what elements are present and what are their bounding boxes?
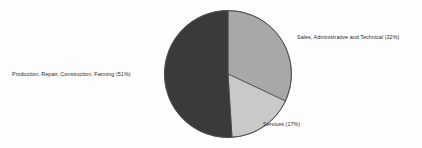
- pie-slice-2: [164, 10, 232, 137]
- pie-chart: Sales, Administrative and Technical (32%…: [0, 0, 422, 148]
- pie-label-services: Services (17%): [263, 122, 300, 128]
- pie-slice-group: [164, 10, 291, 137]
- pie-label-sales-administrative-and-technical: Sales, Administrative and Technical (32%…: [297, 35, 399, 41]
- pie-label-production-repair-construction-farming: Production, Repair, Construction, Farmin…: [12, 72, 131, 78]
